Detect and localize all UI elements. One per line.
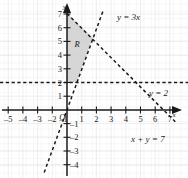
xtick-label: 2 bbox=[94, 114, 98, 124]
graph-figure: –5 –4 –3 –2 –1 1 2 3 4 5 6 7 7 6 5 4 3 2… bbox=[0, 0, 188, 178]
xtick-label: –4 bbox=[18, 114, 28, 124]
region-label-R: R bbox=[73, 39, 80, 49]
ytick-label: 5 bbox=[58, 36, 62, 46]
ytick-label: 7 bbox=[58, 9, 62, 19]
ytick-label: 6 bbox=[58, 23, 62, 33]
ytick-label: –3 bbox=[69, 146, 79, 156]
ytick-label: –1 bbox=[69, 119, 79, 129]
coordinate-plane-svg: –5 –4 –3 –2 –1 1 2 3 4 5 6 7 7 6 5 4 3 2… bbox=[0, 0, 188, 178]
xtick-label: 3 bbox=[109, 114, 113, 124]
xtick-label: 4 bbox=[124, 114, 129, 124]
ytick-label: 2 bbox=[58, 78, 62, 88]
origin-label: O bbox=[59, 112, 65, 122]
xtick-label: 7 bbox=[168, 114, 172, 124]
ytick-label: 3 bbox=[58, 64, 62, 74]
ytick-label: –4 bbox=[69, 160, 79, 170]
label-x-plus-y-equals-7: x + y = 7 bbox=[130, 134, 165, 144]
ytick-label: –2 bbox=[69, 132, 79, 142]
xtick-label: –5 bbox=[3, 114, 13, 124]
label-y-equals-3x: y = 3x bbox=[116, 12, 140, 22]
ytick-label: 1 bbox=[58, 91, 62, 101]
xtick-label: 5 bbox=[138, 114, 142, 124]
xtick-label: –2 bbox=[47, 114, 57, 124]
label-y-equals-2: y = 2 bbox=[148, 88, 169, 98]
xtick-label: 6 bbox=[153, 114, 157, 124]
xtick-label: 1 bbox=[80, 114, 84, 124]
xtick-label: –3 bbox=[32, 114, 42, 124]
